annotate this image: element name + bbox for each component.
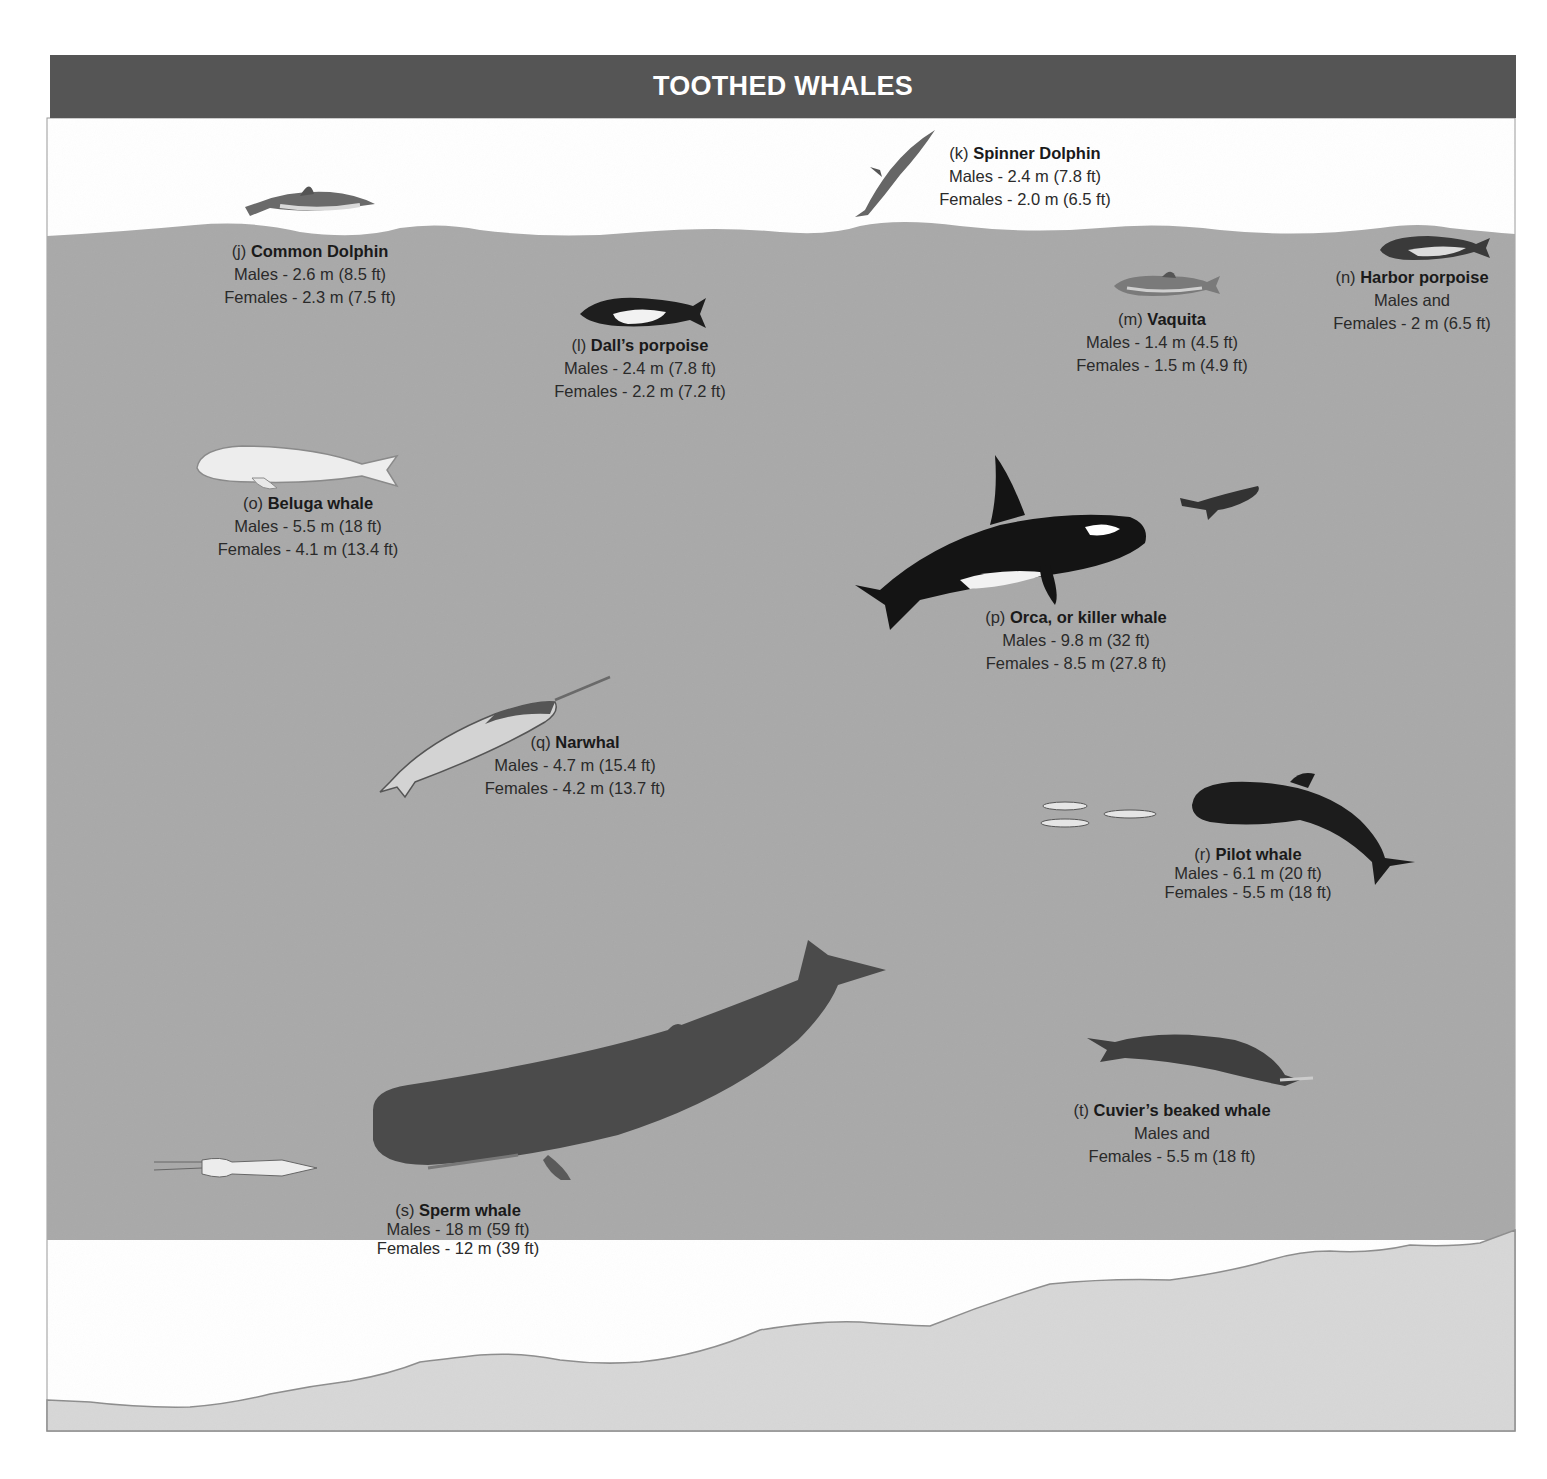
vaquita-illustration — [1112, 264, 1222, 304]
species-label-harbor-porpoise: (n) Harbor porpoise Males and Females - … — [1292, 266, 1532, 335]
section-title: TOOTHED WHALES — [653, 71, 913, 102]
section-header: TOOTHED WHALES — [50, 55, 1516, 118]
giant-squid-illustration — [152, 1150, 322, 1185]
sperm-whale-illustration — [368, 930, 893, 1180]
squid-group-illustration — [1035, 798, 1165, 833]
ocean-scene — [0, 0, 1547, 1479]
cuviers-beaked-whale-illustration — [1085, 1020, 1315, 1095]
species-label-dalls-porpoise: (l) Dall’s porpoise Males - 2.4 m (7.8 f… — [520, 334, 760, 403]
harbor-porpoise-illustration — [1378, 228, 1493, 268]
sea-lion-illustration — [1178, 484, 1263, 524]
species-label-narwhal: (q) Narwhal Males - 4.7 m (15.4 ft) Fema… — [455, 731, 695, 800]
species-label-common-dolphin: (j) Common Dolphin Males - 2.6 m (8.5 ft… — [190, 240, 430, 309]
beluga-whale-illustration — [192, 438, 407, 498]
species-label-orca: (p) Orca, or killer whale Males - 9.8 m … — [946, 606, 1206, 675]
species-label-spinner-dolphin: (k) Spinner Dolphin Males - 2.4 m (7.8 f… — [905, 142, 1145, 211]
species-label-beluga-whale: (o) Beluga whale Males - 5.5 m (18 ft) F… — [188, 492, 428, 561]
species-label-cuviers-beaked-whale: (t) Cuvier’s beaked whale Males and Fema… — [1042, 1099, 1302, 1168]
species-label-sperm-whale: (s) Sperm whale Males - 18 m (59 ft) Fem… — [338, 1201, 578, 1258]
common-dolphin-illustration — [240, 172, 380, 222]
dalls-porpoise-illustration — [578, 284, 708, 334]
species-label-vaquita: (m) Vaquita Males - 1.4 m (4.5 ft) Femal… — [1042, 308, 1282, 377]
species-label-pilot-whale: (r) Pilot whale Males - 6.1 m (20 ft) Fe… — [1128, 845, 1368, 902]
